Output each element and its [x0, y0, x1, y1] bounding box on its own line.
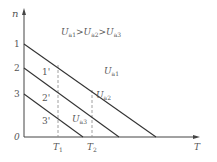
y-axis-label: n [12, 8, 18, 19]
series-label-ua1: Ua1 [104, 66, 119, 77]
origin-label: 0 [14, 132, 20, 142]
region-label-2: 2' [42, 93, 50, 103]
line-ua2 [24, 68, 119, 137]
region-label-3: 3' [42, 116, 50, 126]
y-tick-2: 2 [14, 63, 20, 73]
t1-label: T1 [53, 142, 63, 153]
series-label-ua2: Ua2 [96, 90, 111, 101]
y-axis-arrow-icon [22, 8, 26, 15]
t2-label: T2 [87, 142, 97, 153]
series-label-ua3: Ua3 [72, 114, 87, 125]
x-axis-label: T [194, 142, 201, 152]
y-tick-1: 1 [14, 39, 20, 49]
x-axis-arrow-icon [193, 135, 200, 139]
y-tick-3: 3 [14, 89, 20, 99]
speed-torque-chart: n T 1 2 3 0 1' 2' 3' Ua1 Ua2 Ua3 Ua1>Ua2… [0, 0, 217, 162]
order-annotation: Ua1>Ua2>Ua3 [61, 27, 121, 38]
region-label-1: 1' [42, 67, 50, 77]
